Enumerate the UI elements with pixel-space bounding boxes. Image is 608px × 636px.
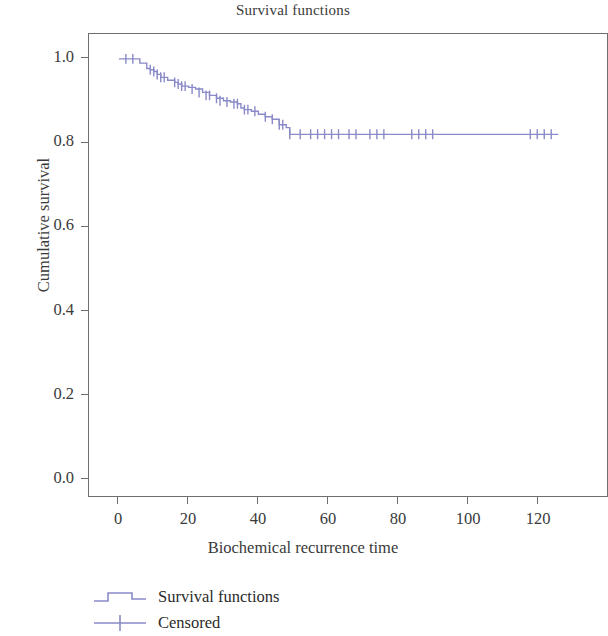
chart-title: Survival functions — [0, 2, 586, 19]
y-tick-mark — [81, 226, 88, 227]
y-tick-mark — [81, 478, 88, 479]
x-tick-label: 0 — [88, 509, 148, 529]
censored-tick-marks — [126, 54, 551, 139]
y-tick-mark — [81, 142, 88, 143]
x-tick-mark — [467, 497, 468, 504]
x-tick-mark — [397, 497, 398, 504]
y-tick-mark — [81, 394, 88, 395]
chart-legend: Survival functions Censored — [92, 584, 392, 636]
plus-marker-icon — [92, 613, 148, 633]
survival-curve-path — [119, 59, 558, 134]
survival-step-line — [119, 59, 558, 134]
survival-curve-svg — [89, 34, 607, 496]
step-line-icon — [92, 587, 148, 607]
x-tick-mark — [257, 497, 258, 504]
x-axis-title: Biochemical recurrence time — [88, 538, 518, 558]
x-tick-label: 120 — [508, 509, 568, 529]
x-tick-label: 80 — [368, 509, 428, 529]
legend-label-survival-functions: Survival functions — [148, 587, 279, 607]
y-tick-mark — [81, 57, 88, 58]
x-tick-label: 20 — [158, 509, 218, 529]
y-axis-title: Cumulative survival — [34, 95, 54, 355]
censored-marks-group — [126, 54, 551, 139]
y-tick-label: 1.0 — [14, 47, 74, 67]
x-tick-label: 100 — [438, 509, 498, 529]
y-tick-label: 0.2 — [14, 384, 74, 404]
x-tick-mark — [187, 497, 188, 504]
legend-item-censored: Censored — [92, 610, 392, 636]
legend-item-survival-functions: Survival functions — [92, 584, 392, 610]
x-tick-label: 60 — [298, 509, 358, 529]
x-tick-mark — [327, 497, 328, 504]
y-tick-label: 0.0 — [14, 468, 74, 488]
x-tick-mark — [537, 497, 538, 504]
plot-area — [88, 33, 608, 497]
legend-label-censored: Censored — [148, 613, 220, 633]
y-tick-mark — [81, 310, 88, 311]
x-tick-label: 40 — [228, 509, 288, 529]
x-tick-mark — [117, 497, 118, 504]
